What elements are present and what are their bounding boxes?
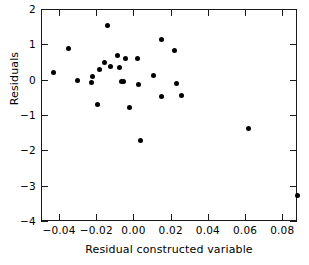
data-point bbox=[117, 65, 122, 70]
data-point bbox=[174, 81, 179, 86]
data-point bbox=[159, 94, 164, 99]
y-tick-label: 2 bbox=[0, 3, 36, 15]
data-point bbox=[295, 193, 300, 198]
y-tick-mark bbox=[41, 9, 48, 10]
data-point bbox=[102, 60, 107, 65]
x-tick-mark-top bbox=[282, 9, 283, 16]
x-tick-mark bbox=[208, 214, 209, 221]
data-point bbox=[115, 53, 120, 58]
y-tick-mark bbox=[41, 115, 48, 116]
x-tick-mark bbox=[171, 214, 172, 221]
y-tick-mark-right bbox=[290, 221, 297, 222]
data-points-layer bbox=[42, 10, 296, 220]
data-point bbox=[179, 93, 184, 98]
x-tick-label: 0.02 bbox=[159, 224, 183, 236]
x-tick-mark bbox=[245, 214, 246, 221]
data-point bbox=[138, 138, 143, 143]
data-point bbox=[136, 82, 141, 87]
y-tick-mark bbox=[41, 80, 48, 81]
data-point bbox=[135, 56, 140, 61]
y-tick-mark-right bbox=[290, 80, 297, 81]
y-tick-mark-right bbox=[290, 9, 297, 10]
data-point bbox=[66, 46, 71, 51]
x-tick-label: −0.02 bbox=[80, 224, 113, 236]
y-tick-mark bbox=[41, 186, 48, 187]
x-tick-mark bbox=[282, 214, 283, 221]
scatter-plot-figure: 210−1−2−3−4 −0.04−0.020.000.020.040.060.… bbox=[0, 0, 309, 265]
x-tick-mark bbox=[96, 214, 97, 221]
data-point bbox=[75, 78, 80, 83]
y-tick-mark-right bbox=[290, 186, 297, 187]
data-point bbox=[51, 70, 56, 75]
data-point bbox=[90, 74, 95, 79]
y-tick-mark-right bbox=[290, 115, 297, 116]
data-point bbox=[89, 80, 94, 85]
x-tick-label: 0.06 bbox=[233, 224, 257, 236]
data-point bbox=[121, 79, 126, 84]
y-tick-label: −2 bbox=[0, 144, 36, 156]
data-point bbox=[108, 64, 113, 69]
data-point bbox=[127, 105, 132, 110]
data-point bbox=[246, 126, 251, 131]
x-tick-label: −0.04 bbox=[42, 224, 75, 236]
x-tick-mark-top bbox=[96, 9, 97, 16]
x-tick-mark-top bbox=[59, 9, 60, 16]
x-tick-mark-top bbox=[171, 9, 172, 16]
x-tick-mark bbox=[133, 214, 134, 221]
data-point bbox=[172, 48, 177, 53]
y-tick-mark bbox=[41, 150, 48, 151]
data-point bbox=[151, 73, 156, 78]
data-point bbox=[105, 23, 110, 28]
x-tick-mark-top bbox=[245, 9, 246, 16]
y-tick-mark-right bbox=[290, 44, 297, 45]
x-tick-label: 0.08 bbox=[270, 224, 294, 236]
x-tick-label: 0.04 bbox=[196, 224, 220, 236]
x-tick-mark-top bbox=[133, 9, 134, 16]
y-tick-mark bbox=[41, 221, 48, 222]
x-tick-mark-top bbox=[208, 9, 209, 16]
data-point bbox=[95, 102, 100, 107]
x-tick-label: 0.00 bbox=[121, 224, 145, 236]
plot-frame bbox=[41, 9, 297, 221]
y-axis-title: Residuals bbox=[8, 19, 21, 139]
y-tick-mark bbox=[41, 44, 48, 45]
data-point bbox=[97, 67, 102, 72]
data-point bbox=[159, 37, 164, 42]
x-tick-mark bbox=[59, 214, 60, 221]
y-tick-mark-right bbox=[290, 150, 297, 151]
y-tick-label: −4 bbox=[0, 215, 36, 227]
data-point bbox=[123, 56, 128, 61]
x-axis-title: Residual constructed variable bbox=[41, 243, 297, 256]
y-tick-label: −3 bbox=[0, 180, 36, 192]
